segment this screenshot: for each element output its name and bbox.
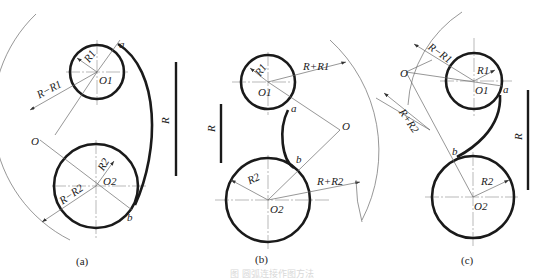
- label-o1: O1: [475, 84, 488, 96]
- caption-a: (a): [76, 255, 89, 268]
- label-dim1: R−R1: [34, 77, 64, 100]
- label-r2: R2: [480, 175, 494, 187]
- caption-b: (b): [255, 253, 268, 266]
- label-point-b: b: [127, 211, 133, 223]
- label-o2: O2: [270, 203, 284, 215]
- label-o2: O2: [103, 175, 117, 187]
- label-r1: R1: [476, 64, 489, 76]
- label-o: O: [400, 67, 408, 79]
- connecting-arc: [282, 110, 294, 168]
- label-point-a: a: [291, 102, 297, 114]
- label-point-a: a: [503, 83, 509, 95]
- label-scale-r: R: [205, 125, 217, 133]
- label-r2: R2: [94, 155, 111, 173]
- label-scale-r: R: [159, 117, 171, 125]
- label-point-b: b: [452, 145, 458, 157]
- label-o1: O1: [258, 86, 271, 98]
- caption-c: (c): [461, 254, 474, 267]
- label-dim1: R+R1: [302, 60, 329, 72]
- label-point-a: a: [119, 38, 125, 50]
- label-r1: R1: [251, 61, 268, 79]
- panel-a: R1 O1 a R−R1 O R2 O2 R−R2 b R (a): [0, 14, 176, 268]
- label-o: O: [31, 135, 39, 147]
- label-o: O: [342, 120, 350, 132]
- label-r2: R2: [244, 170, 262, 187]
- label-dim2: R+R2: [316, 175, 344, 187]
- arc-connection-figure: R1 O1 a R−R1 O R2 O2 R−R2 b R (a) R1: [0, 0, 542, 280]
- construction-arc-2: [356, 180, 362, 222]
- figure-caption: 图 圆弧连接作图方法: [230, 268, 314, 279]
- construction-arc: [330, 40, 379, 220]
- label-o2: O2: [474, 200, 488, 212]
- label-o1: O1: [99, 74, 112, 86]
- connecting-arc: [457, 95, 500, 157]
- label-scale-r: R: [512, 133, 524, 141]
- label-point-b: b: [296, 153, 302, 165]
- panel-c: R−R1 O R1 O1 a R+R2 b R2 O2 R (c): [356, 12, 528, 267]
- panel-b: R1 O1 R+R1 a O b R2 R+R2 O2 R (b): [205, 40, 379, 266]
